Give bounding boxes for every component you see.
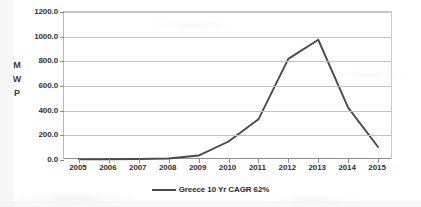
y-axis-tick-mark <box>60 160 64 161</box>
y-axis-tick-label: 1200.0 <box>16 7 58 16</box>
y-axis-tick-mark <box>60 12 64 13</box>
plot-area <box>63 11 392 159</box>
y-axis-tick-label: 0.0 <box>16 155 58 164</box>
gridline <box>64 37 391 38</box>
series-polyline <box>79 40 378 160</box>
gridline <box>64 12 391 13</box>
gridline <box>64 135 391 136</box>
y-axis-tick-label: 400.0 <box>16 105 58 114</box>
chart-legend: Greece 10 Yr CAGR 62% <box>0 185 421 194</box>
y-axis-tick-labels: 0.0200.0400.0600.0800.01000.01200.0 <box>14 0 58 207</box>
y-axis-tick-label: 800.0 <box>16 56 58 65</box>
y-axis-tick-mark <box>60 86 64 87</box>
y-axis-tick-mark <box>60 37 64 38</box>
y-axis-tick-mark <box>60 61 64 62</box>
legend-line-swatch <box>152 189 176 191</box>
y-axis-tick-label: 200.0 <box>16 130 58 139</box>
y-axis-tick-mark <box>60 111 64 112</box>
y-axis-tick-label: 1000.0 <box>16 31 58 40</box>
x-axis-tick-labels: 2005200620072008200920102011201220132014… <box>63 163 392 177</box>
gridline <box>64 111 391 112</box>
y-axis-tick-label: 600.0 <box>16 81 58 90</box>
gridline <box>64 61 391 62</box>
gridline <box>64 86 391 87</box>
line-chart: M W P 0.0200.0400.0600.0800.01000.01200.… <box>0 0 421 207</box>
y-axis-tick-mark <box>60 135 64 136</box>
x-axis-tick-label: 2015 <box>357 163 397 172</box>
legend-label: Greece 10 Yr CAGR 62% <box>179 185 270 194</box>
